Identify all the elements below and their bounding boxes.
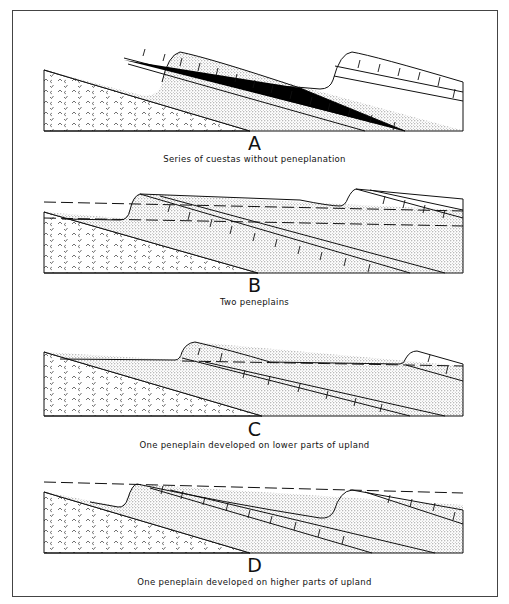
panel-c-caption: One peneplain developed on lower parts o… — [0, 440, 509, 450]
panel-a-diagram — [44, 49, 465, 131]
panel-c-diagram — [44, 342, 463, 416]
peneplain-line — [44, 482, 463, 493]
panel-a-label: A — [0, 132, 509, 154]
panel-d-caption: One peneplain developed on higher parts … — [0, 577, 509, 587]
panel-a-caption: Series of cuestas without peneplanation — [0, 154, 509, 164]
panel-c-label: C — [0, 418, 509, 440]
panel-b-label: B — [0, 274, 509, 296]
panel-d-diagram — [44, 482, 463, 553]
panel-b-diagram — [44, 189, 463, 273]
panel-b-caption: Two peneplains — [0, 297, 509, 307]
panel-d-label: D — [0, 554, 509, 576]
